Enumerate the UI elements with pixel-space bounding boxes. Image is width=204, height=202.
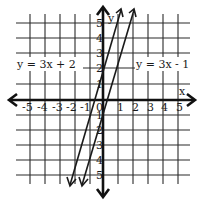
y-axis-label: y [107,12,115,25]
x-tick-label: -1 [80,101,91,114]
y-tick-label: 4 [96,32,103,45]
y-tick-label: 1 [96,109,103,122]
x-negative-tick-labels: -5 -4 -3 -2 -1 [22,101,91,114]
y-tick-label: 2 [96,62,103,75]
equation-y-3x-plus-2: y = 3x + 2 [16,58,76,71]
y-tick-label: 1 [96,78,103,91]
y-negative-tick-labels: 1 2 3 4 5 [96,109,103,182]
coordinate-graph: y = 3x + 2 y = 3x - 1 y x 0 -5 -4 -3 -2 … [0,0,204,202]
x-tick-label: 4 [161,101,168,114]
x-tick-label: -5 [22,101,33,114]
y-tick-label: 2 [96,124,103,137]
y-tick-label: 5 [96,169,103,182]
y-tick-label: 5 [96,17,103,30]
x-tick-label: 3 [147,101,154,114]
x-tick-label: -3 [52,101,63,114]
y-positive-tick-labels: 5 4 3 2 1 [96,17,103,91]
y-tick-label: 3 [96,139,103,152]
equation-y-3x-minus-1: y = 3x - 1 [135,58,189,71]
x-tick-label: 1 [117,101,124,114]
x-axis-label: x [179,85,186,98]
equation-label-right: y = 3x - 1 [135,57,201,71]
equation-label-left: y = 3x + 2 [15,57,83,71]
x-tick-label: 2 [132,101,139,114]
y-tick-label: 3 [96,47,103,60]
y-tick-label: 4 [96,154,103,167]
x-tick-label: 5 [176,101,183,114]
x-positive-tick-labels: 1 2 3 4 5 [117,101,183,114]
x-tick-label: -4 [37,101,48,114]
x-tick-label: -2 [66,101,77,114]
